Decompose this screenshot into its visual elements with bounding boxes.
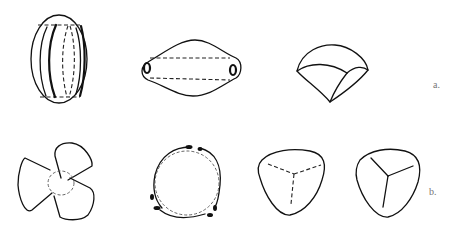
panel-a1 xyxy=(31,15,87,103)
diagram-canvas xyxy=(0,0,456,231)
panel-a2 xyxy=(142,40,241,96)
row-label-a: a. xyxy=(433,79,440,90)
panel-b3 xyxy=(258,150,324,215)
panel-a3 xyxy=(297,45,368,102)
row-label-b: b. xyxy=(429,186,437,197)
panel-b1 xyxy=(18,143,94,220)
panel-b2 xyxy=(150,145,220,217)
panel-b4 xyxy=(356,149,420,217)
